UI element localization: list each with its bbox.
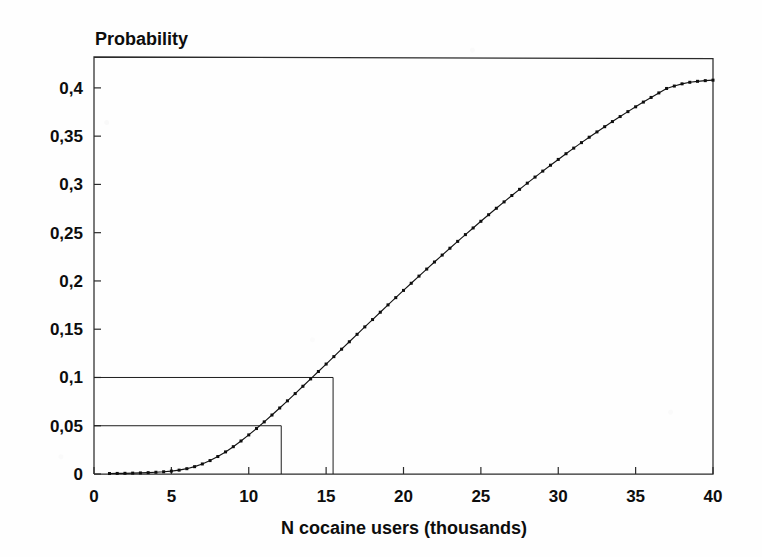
curve-data-point xyxy=(363,325,366,328)
curve-data-point xyxy=(340,348,343,351)
curve-data-point xyxy=(541,170,544,173)
curve-data-point xyxy=(170,470,173,473)
x-axis-tick-group: 0510152025303540 xyxy=(89,467,722,506)
x-axis-tick-label: 25 xyxy=(471,487,490,506)
curve-data-point xyxy=(626,110,629,113)
x-axis-tick-label: 10 xyxy=(239,487,258,506)
x-axis-tick-label: 0 xyxy=(89,487,98,506)
curve-data-point xyxy=(704,79,707,82)
probability-curve-markers xyxy=(108,79,715,475)
curve-data-point xyxy=(286,399,289,402)
curve-data-point xyxy=(425,268,428,271)
curve-data-point xyxy=(201,462,204,465)
plot-frame-border xyxy=(94,57,713,474)
curve-data-point xyxy=(116,472,119,475)
curve-data-point xyxy=(495,207,498,210)
curve-data-point xyxy=(549,164,552,167)
curve-data-point xyxy=(673,85,676,88)
curve-data-point xyxy=(402,289,405,292)
curve-data-point xyxy=(534,176,537,179)
curve-data-point xyxy=(240,439,243,442)
curve-data-point xyxy=(518,188,521,191)
curve-data-point xyxy=(263,420,266,423)
curve-data-point xyxy=(154,471,157,474)
x-axis-tick-label: 40 xyxy=(704,487,723,506)
curve-data-point xyxy=(410,282,413,285)
curve-data-point xyxy=(325,363,328,366)
curve-data-point xyxy=(595,130,598,133)
y-axis-tick-label: 0,35 xyxy=(50,127,83,146)
y-axis-tick-label: 0,3 xyxy=(59,175,83,194)
probability-line-chart: 00,050,10,150,20,250,30,350,4 0510152025… xyxy=(0,0,762,557)
plot-frame xyxy=(94,57,713,474)
curve-data-point xyxy=(224,450,227,453)
y-axis-tick-label: 0 xyxy=(74,465,83,484)
curve-data-point xyxy=(108,472,111,475)
curve-data-point xyxy=(131,472,134,475)
curve-data-point xyxy=(332,355,335,358)
x-axis-tick-label: 20 xyxy=(394,487,413,506)
curve-data-point xyxy=(387,303,390,306)
curve-data-point xyxy=(712,79,715,82)
curve-data-point xyxy=(526,182,529,185)
curve-data-point xyxy=(479,220,482,223)
curve-data-point xyxy=(696,80,699,83)
curve-data-point xyxy=(464,233,467,236)
curve-data-point xyxy=(650,96,653,99)
x-axis-title: N cocaine users (thousands) xyxy=(281,518,527,538)
curve-data-point xyxy=(441,254,444,257)
curve-data-point xyxy=(611,120,614,123)
curve-data-point xyxy=(417,275,420,278)
curve-data-point xyxy=(294,392,297,395)
y-axis-tick-label: 0,05 xyxy=(50,417,83,436)
y-axis-tick-group: 00,050,10,150,20,250,30,350,4 xyxy=(50,79,101,484)
curve-data-point xyxy=(588,136,591,139)
x-axis-tick-label: 15 xyxy=(317,487,336,506)
curve-data-point xyxy=(394,296,397,299)
curve-data-point xyxy=(270,414,273,417)
curve-data-point xyxy=(448,247,451,250)
curve-data-point xyxy=(309,377,312,380)
curve-data-point xyxy=(688,81,691,84)
curve-data-point xyxy=(572,147,575,150)
curve-data-point xyxy=(603,125,606,128)
curve-data-point xyxy=(178,469,181,472)
curve-data-point xyxy=(665,87,668,90)
curve-data-point xyxy=(216,455,219,458)
curve-data-point xyxy=(472,226,475,229)
x-axis-tick-label: 35 xyxy=(626,487,645,506)
curve-data-point xyxy=(379,311,382,314)
curve-data-point xyxy=(634,105,637,108)
curve-data-point xyxy=(317,370,320,373)
curve-data-point xyxy=(232,445,235,448)
curve-data-point xyxy=(123,472,126,475)
curve-data-point xyxy=(564,152,567,155)
curve-data-point xyxy=(580,141,583,144)
curve-data-point xyxy=(278,406,281,409)
y-axis-tick-label: 0,4 xyxy=(59,79,83,98)
curve-data-point xyxy=(510,194,513,197)
curve-data-point xyxy=(185,467,188,470)
y-axis-tick-label: 0,15 xyxy=(50,320,83,339)
chart-figure: 00,050,10,150,20,250,30,350,4 0510152025… xyxy=(0,0,762,557)
curve-data-point xyxy=(681,82,684,85)
curve-data-point xyxy=(503,200,506,203)
y-axis-title: Probability xyxy=(95,29,188,49)
curve-data-point xyxy=(348,340,351,343)
curve-data-point xyxy=(162,470,165,473)
probability-curve-line xyxy=(109,80,713,473)
curve-data-point xyxy=(255,427,258,430)
curve-data-point xyxy=(147,471,150,474)
y-axis-tick-label: 0,1 xyxy=(59,368,83,387)
curve-data-point xyxy=(619,115,622,118)
curve-data-point xyxy=(209,459,212,462)
x-axis-tick-label: 5 xyxy=(167,487,176,506)
curve-data-point xyxy=(247,433,250,436)
curve-data-point xyxy=(139,471,142,474)
curve-data-point xyxy=(487,213,490,216)
curve-data-point xyxy=(193,465,196,468)
curve-data-point xyxy=(657,91,660,94)
curve-data-point xyxy=(356,333,359,336)
curve-data-point xyxy=(301,385,304,388)
curve-data-point xyxy=(371,318,374,321)
